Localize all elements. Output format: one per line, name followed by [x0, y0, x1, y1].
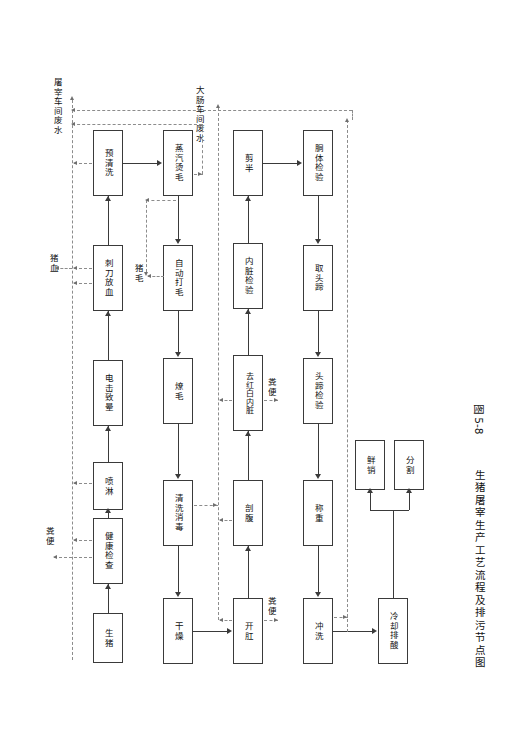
arrowhead-healthcheck [105, 584, 111, 589]
arrowhead-carcassinspect [297, 160, 302, 166]
node-carcass-inspect: 胴体检验 [303, 130, 333, 196]
arrowhead-freshsale [367, 488, 373, 493]
node-live-pig: 生猪 [93, 613, 123, 663]
figure-page: 屠宰车间废水 大肠车间废水 猪血 猪毛 粪便 粪便 粪便 预清洗 刺刀放血 电击… [0, 0, 505, 729]
pollution-label-manure-intake: 粪便 [44, 527, 53, 546]
node-open-anus: 开肛 [233, 598, 263, 664]
edge-headcheck-weigh [318, 424, 319, 474]
node-spray-shower: 喷淋 [93, 462, 123, 510]
arrowhead-removeviscera-manure [274, 398, 278, 402]
pollution-label-pig-blood: 猪血 [48, 254, 57, 273]
node-rinse: 冲洗 [303, 598, 333, 664]
dashed-trunk-rinse-wastewater [347, 120, 348, 632]
arrowhead-cutting [406, 488, 412, 493]
arrowhead-stun [105, 426, 111, 431]
dashed-hair-trunk [146, 200, 147, 272]
flowchart-canvas: 屠宰车间废水 大肠车间废水 猪血 猪毛 粪便 粪便 粪便 预清洗 刺刀放血 电击… [0, 0, 505, 729]
node-weighing: 称重 [303, 480, 333, 546]
arrowhead-manure-intake [53, 555, 57, 559]
node-cutting: 分割 [394, 440, 424, 490]
dashed-top-return-lower [72, 124, 202, 125]
dashed-top-return-lower-drop [202, 124, 203, 174]
node-wash-disinfect: 清洗消毒 [163, 480, 193, 546]
arrowhead-chill [372, 628, 377, 634]
arrowhead-intestine-wastewater-out [216, 104, 220, 108]
edge-carcass-removehead [318, 196, 319, 239]
arrowhead-autodehair [175, 239, 181, 244]
arrowhead-openabdomen [245, 546, 251, 551]
arrowhead-washdisinfect [175, 474, 181, 479]
arrowhead-openanus-manure [274, 618, 278, 622]
edge-spray-stun [108, 426, 109, 462]
dashed-manure-intake-branch [54, 557, 92, 558]
node-remove-head-feet: 取头蹄 [303, 245, 333, 311]
edge-singe-washdisinfect [178, 424, 179, 474]
node-fresh-sale: 鲜销 [355, 440, 385, 490]
arrowhead-healthcheck-waste [73, 538, 77, 542]
pollution-label-slaughter-wastewater: 屠宰车间废水 [52, 78, 61, 135]
arrowhead-autodehair-hair [147, 274, 151, 278]
arrowhead-top-return-upper [71, 108, 75, 112]
arrowhead-pig-blood [55, 266, 59, 270]
pollution-label-manure-anus: 粪便 [266, 597, 275, 616]
dashed-top-return-upper [72, 110, 352, 111]
node-knife-bleeding: 刺刀放血 [93, 245, 123, 311]
arrowhead-top-return-lower [71, 122, 75, 126]
dashed-trunk-slaughter-wastewater [72, 100, 73, 660]
arrowhead-headcheck [315, 352, 321, 357]
edge-washdisinfect-dry [178, 546, 179, 592]
edge-splithalf-carcassinspect [263, 163, 297, 164]
arrowhead-visceracheck [245, 309, 251, 314]
arrowhead-steamscald-wastewater [198, 172, 202, 176]
dashed-top-return-upper-drop [352, 110, 353, 120]
edge-chill-split-stem [393, 510, 394, 598]
arrowhead-washdisinfect-waste [213, 503, 217, 507]
node-chill-deacidify: 冷却排酸 [378, 598, 408, 664]
arrowhead-openabdomen-waste [219, 518, 223, 522]
arrowhead-rinse-trunk-up [345, 118, 349, 122]
edge-visceracheck-splithalf [248, 196, 249, 243]
edge-removehead-headcheck [318, 311, 319, 352]
figure-caption-title: 生猪屠宰生产工艺流程及排污节点图 [473, 469, 485, 669]
arrowhead-rinse-waste [343, 615, 347, 619]
arrowhead-bleed [105, 311, 111, 316]
arrowhead-rinse [315, 592, 321, 597]
arrowhead-openanus-waste [219, 618, 223, 622]
dashed-steamscald-to-hair [146, 200, 176, 201]
dashed-trunk-intestine-wastewater [218, 108, 219, 620]
arrowhead-weigh [315, 474, 321, 479]
node-split-half: 剪半 [233, 130, 263, 196]
edge-autodehair-singe [178, 311, 179, 352]
arrowhead-spray [105, 508, 111, 513]
arrowhead-steamscald-hair [145, 198, 149, 202]
edge-openanus-openabdomen [248, 546, 249, 598]
arrowhead-removehead [315, 239, 321, 244]
node-auto-dehair: 自动打毛 [163, 245, 193, 311]
edge-openabdomen-removeviscera [248, 431, 249, 480]
arrowhead-removeviscera [245, 431, 251, 436]
arrowhead-prewash [105, 196, 111, 201]
node-dry: 干燥 [163, 598, 193, 664]
arrowhead-bleed-waste-b [73, 281, 77, 285]
pollution-label-pig-hair: 猪毛 [133, 264, 142, 283]
arrowhead-singe [175, 352, 181, 357]
node-open-abdomen: 剖腹 [233, 480, 263, 546]
node-viscera-inspect: 内脏检验 [233, 243, 263, 309]
arrowhead-slaughter-wastewater-out [70, 96, 74, 100]
edge-weigh-rinse [318, 546, 319, 592]
pollution-label-manure-viscera: 粪便 [266, 378, 275, 397]
edge-steamscald-autodehair [178, 196, 179, 239]
edge-stun-bleed [108, 311, 109, 360]
node-remove-viscera: 去红白内脏 [233, 355, 263, 431]
arrowhead-bleed-waste-a [73, 266, 77, 270]
arrowhead-openanus [227, 628, 232, 634]
edge-chill-split-bar [370, 510, 409, 511]
arrowhead-dry [175, 592, 181, 597]
edge-dry-openanus [193, 631, 227, 632]
node-head-feet-inspect: 头蹄检验 [303, 358, 333, 424]
figure-caption: 图 5-8 生猪屠宰生产工艺流程及排污节点图 [472, 404, 491, 670]
arrowhead-spray-waste [73, 481, 77, 485]
figure-caption-number: 图 5-8 [473, 404, 485, 435]
node-steam-scald: 蒸汽烫毛 [163, 130, 193, 196]
node-electric-stun: 电击致晕 [93, 360, 123, 426]
